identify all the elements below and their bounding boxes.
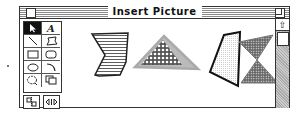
line-tool[interactable] [24,35,42,48]
zoom-box[interactable] [275,8,285,18]
text-tool[interactable]: A [42,22,60,35]
dotted-triangle-shape [135,36,198,69]
shapes-drawing [65,20,275,108]
tool-palette: A [23,21,62,93]
freeform-tool[interactable] [42,35,60,48]
lasso-tool[interactable] [24,74,42,87]
line-icon [27,36,39,46]
hourglass-shape [239,35,275,83]
duplicate-icon [45,75,58,86]
picture-canvas[interactable] [65,20,275,108]
arc-icon [45,62,57,72]
freeform-icon [45,36,58,46]
vertical-scrollbar[interactable]: ⇧ [275,19,289,108]
arrow-tool[interactable] [24,22,42,35]
outlined-quadrilateral-shape [210,32,240,86]
up-arrow-icon: ⇧ [279,20,287,30]
striped-chevron-shape [92,33,128,76]
text-a-icon: A [47,23,55,34]
title-bar[interactable]: Insert Picture [20,7,289,19]
lasso-icon [26,75,39,86]
duplicate-tool[interactable] [42,74,60,87]
oval-icon [27,63,39,72]
scroll-up-arrow[interactable]: ⇧ [276,19,289,31]
scroll-thumb[interactable] [277,32,289,46]
rotate-button[interactable] [43,95,60,109]
arc-tool[interactable] [42,61,60,74]
rounded-rectangle-tool[interactable] [42,48,60,61]
rotate-icon [45,98,58,106]
rectangle-icon [27,50,39,59]
close-box[interactable] [26,8,36,18]
window-title: Insert Picture [107,6,201,18]
rounded-rectangle-icon [45,50,57,59]
rectangle-tool[interactable] [24,48,42,61]
oval-tool[interactable] [24,61,42,74]
insert-picture-window: Insert Picture A [19,6,290,108]
arrow-icon [28,23,38,33]
flip-button[interactable] [23,95,40,109]
flip-icon [26,97,37,107]
stray-mark [7,65,9,67]
